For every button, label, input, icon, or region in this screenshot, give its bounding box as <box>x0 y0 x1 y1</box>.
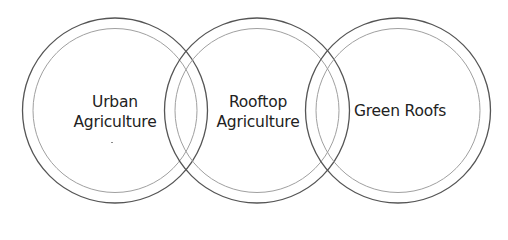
label-line: Agriculture <box>208 112 308 132</box>
label-green-roofs: Green Roofs <box>345 101 455 121</box>
label-line: Agriculture <box>65 112 165 132</box>
label-line: Urban <box>65 92 165 112</box>
label-urban-agriculture: Urban Agriculture <box>65 92 165 132</box>
label-line: Rooftop <box>208 92 308 112</box>
label-line: Green Roofs <box>345 101 455 121</box>
label-rooftop-agriculture: Rooftop Agriculture <box>208 92 308 132</box>
scan-speck <box>111 142 113 143</box>
